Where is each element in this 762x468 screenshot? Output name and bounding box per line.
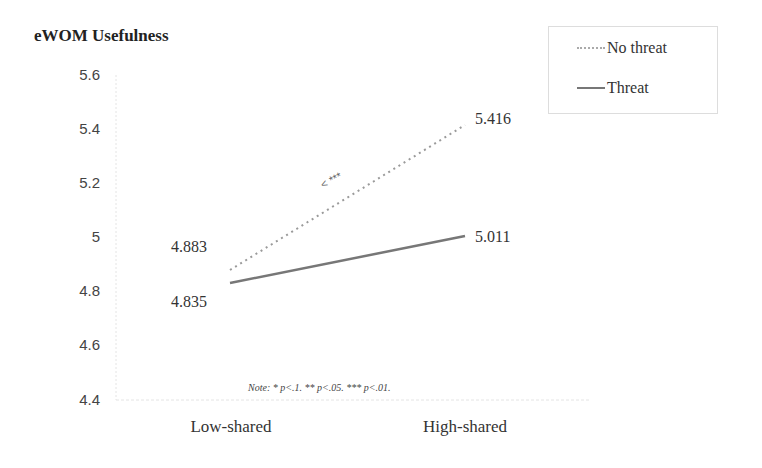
data-label-no-threat-high: 5.416: [475, 110, 511, 128]
data-label-no-threat-low: 4.883: [171, 238, 207, 256]
note-text: Note: * p<.1. ** p<.05. *** p<.01.: [248, 382, 390, 393]
legend-item-no-threat: No threat: [577, 39, 667, 57]
data-label-threat-low: 4.835: [171, 293, 207, 311]
legend: No threat Threat: [548, 26, 718, 114]
x-label-high-shared: High-shared: [385, 417, 545, 437]
threat-line: [230, 236, 465, 283]
legend-label: Threat: [607, 79, 649, 97]
data-label-threat-high: 5.011: [475, 228, 510, 246]
no-threat-line: [230, 125, 465, 270]
solid-line-icon: [577, 87, 605, 89]
legend-label: No threat: [607, 39, 667, 57]
x-label-low-shared: Low-shared: [151, 417, 311, 437]
dotted-line-icon: [577, 47, 605, 49]
legend-item-threat: Threat: [577, 79, 649, 97]
